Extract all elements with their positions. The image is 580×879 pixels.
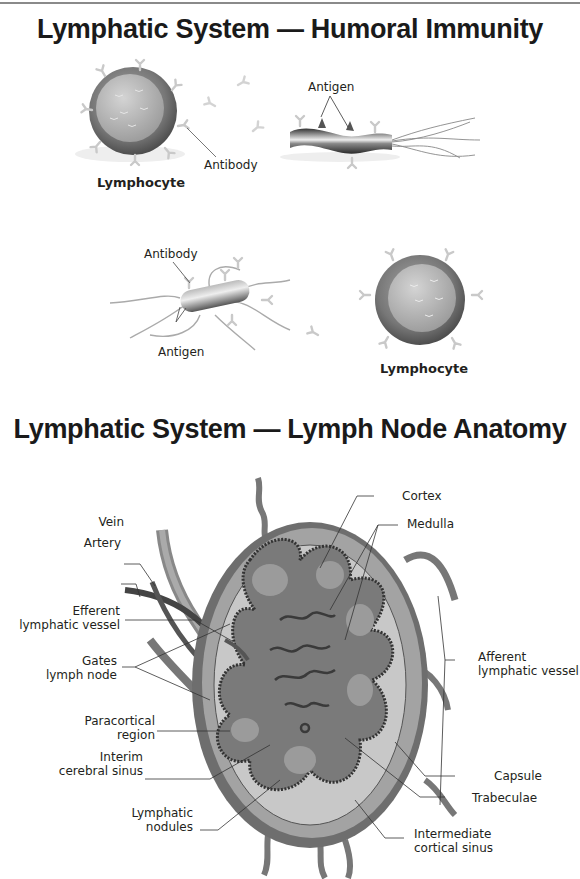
humoral-immunity-illustration: [0, 0, 580, 400]
intermediate-cortical-sinus-label: Intermediate cortical sinus: [414, 827, 493, 855]
lymphocyte-label-top: Lymphocyte: [97, 176, 185, 190]
lymphocyte-bottom: [360, 249, 482, 348]
bacterium-top: [280, 116, 480, 168]
lymphocyte-top: [75, 60, 189, 165]
capsule-label: Capsule: [494, 769, 542, 783]
efferent-lymphatic-vessel-label: Efferent lymphatic vessel: [19, 604, 120, 632]
lymph-node-title: Lymphatic System — Lymph Node Anatomy: [0, 414, 580, 445]
paracortical-region-label: Paracortical region: [84, 714, 155, 742]
artery-label: Artery: [84, 536, 121, 550]
lymphatic-nodules-label: Lymphatic nodules: [131, 806, 193, 834]
lymphocyte-label-bottom: Lymphocyte: [380, 362, 468, 376]
afferent-lymphatic-vessel-label: Afferent lymphatic vessel: [478, 650, 579, 678]
interim-cerebral-sinus-label: Interim cerebral sinus: [59, 750, 143, 778]
antigen-label-top: Antigen: [308, 80, 354, 94]
antibody-label-bottom: Antibody: [144, 247, 198, 261]
antigen-label-bottom: Antigen: [158, 345, 204, 359]
vein-label: Vein: [98, 515, 124, 529]
trabeculae-label: Trabeculae: [472, 791, 537, 805]
cortex-label: Cortex: [402, 489, 442, 503]
gates-lymph-node-label: Gates lymph node: [46, 654, 117, 682]
medulla-label: Medulla: [407, 517, 454, 531]
antibody-label-top: Antibody: [204, 158, 258, 172]
bacterium-bottom: [110, 258, 290, 350]
